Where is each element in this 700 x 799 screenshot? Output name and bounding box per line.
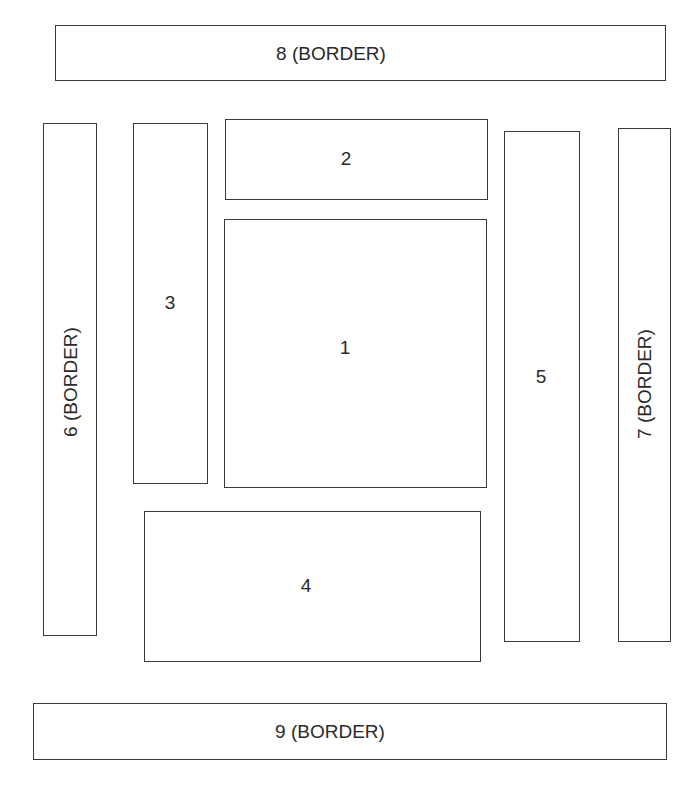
region-8-label: 8 (BORDER): [276, 44, 386, 63]
region-1-label: 1: [340, 338, 351, 357]
region-9-label: 9 (BORDER): [275, 722, 385, 741]
region-4-label: 4: [301, 576, 312, 595]
region-3-label: 3: [165, 293, 176, 312]
region-2: [225, 119, 488, 200]
region-4: [144, 511, 481, 662]
region-1: [224, 219, 487, 488]
region-5: [504, 131, 580, 642]
region-6-label: 6 (BORDER): [61, 327, 80, 437]
region-5-label: 5: [536, 367, 547, 386]
region-7-label: 7 (BORDER): [635, 329, 654, 439]
region-2-label: 2: [341, 149, 352, 168]
